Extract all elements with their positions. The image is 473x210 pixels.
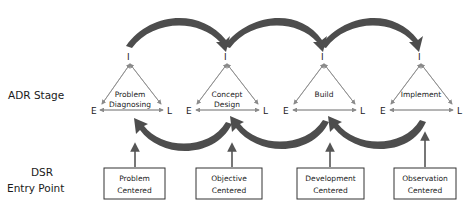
forward-arrow-3 xyxy=(320,18,423,52)
stage2-name-line1: Concept xyxy=(211,90,242,99)
stage1-apex-I: I xyxy=(127,52,130,62)
backward-arrows xyxy=(134,116,426,151)
stage3-name: Build xyxy=(315,90,334,99)
dsr-label-line1: DSR xyxy=(31,166,53,178)
entry3-line2: Centered xyxy=(313,186,348,195)
entry2-line2: Centered xyxy=(212,186,247,195)
backward-arrow-2 xyxy=(230,116,329,149)
entry1-line1: Problem xyxy=(119,174,150,183)
entry2-line1: Objective xyxy=(211,174,247,183)
forward-arrow-1 xyxy=(126,18,230,52)
stage1-name-line1: Problem xyxy=(115,90,146,99)
stage4-left-E: E xyxy=(380,106,386,116)
stage3-left-E: E xyxy=(283,106,289,116)
stage-triangles xyxy=(100,64,453,110)
stage4-name: Implement xyxy=(401,90,442,99)
adr-dsr-diagram: ADR Stage DSR Entry Point I E L Problem … xyxy=(0,0,473,210)
entry3-line1: Development xyxy=(305,174,356,183)
stage2-left-E: E xyxy=(186,106,192,116)
stage2-apex-I: I xyxy=(224,52,227,62)
stage1-name-line2: Diagnosing xyxy=(109,100,151,109)
entry4-line1: Observation xyxy=(402,174,448,183)
entry-up-arrows xyxy=(135,136,425,167)
dsr-label-line2: Entry Point xyxy=(7,182,64,194)
forward-arrow-2 xyxy=(224,18,327,52)
adr-stage-label: ADR Stage xyxy=(8,89,64,101)
stage1-right-L: L xyxy=(167,106,172,116)
entry1-line2: Centered xyxy=(117,186,152,195)
forward-arrows xyxy=(126,18,423,52)
entry-boxes xyxy=(104,168,456,199)
backward-arrow-3 xyxy=(328,116,426,149)
stage2-right-L: L xyxy=(263,106,268,116)
stage2-name-line2: Design xyxy=(214,100,240,109)
stage1-left-E: E xyxy=(91,106,97,116)
stage3-apex-I: I xyxy=(321,52,324,62)
backward-arrow-1 xyxy=(134,118,232,151)
stage4-right-L: L xyxy=(457,106,462,116)
entry4-line2: Centered xyxy=(408,186,443,195)
stage3-right-L: L xyxy=(360,106,365,116)
stage4-apex-I: I xyxy=(418,52,421,62)
